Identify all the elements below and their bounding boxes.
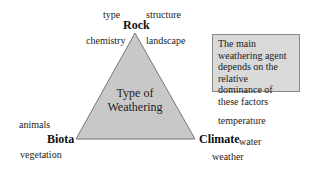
vertex-biota: Biota <box>47 133 74 146</box>
rock-factor-landscape: landscape <box>146 35 185 46</box>
rock-factor-type: type <box>103 9 120 20</box>
vertex-climate: Climate <box>199 133 240 146</box>
biota-factor-vegetation: vegetation <box>20 149 62 160</box>
biota-factor-animals: animals <box>19 119 50 130</box>
climate-factor-weather: weather <box>212 151 244 162</box>
center-line-1: Type of <box>105 86 165 100</box>
rock-factor-chemistry: chemistry <box>86 35 125 46</box>
center-line-2: Weathering <box>105 100 165 114</box>
explanation-note: The main weathering agent depends on the… <box>212 34 300 92</box>
rock-factor-structure: structure <box>146 9 181 20</box>
climate-factor-water: water <box>239 136 261 147</box>
vertex-rock: Rock <box>123 19 150 32</box>
triangle-center-label: Type of Weathering <box>105 86 165 114</box>
climate-factor-temperature: temperature <box>218 115 266 126</box>
